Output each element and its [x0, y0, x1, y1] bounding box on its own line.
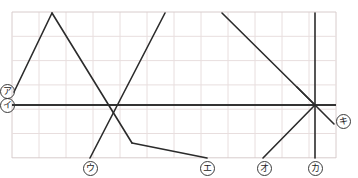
- label-ka: カ: [308, 161, 323, 176]
- label-u: ウ: [83, 161, 98, 176]
- label-ki: キ: [336, 114, 351, 129]
- grid-layer: [12, 12, 336, 158]
- diagram-canvas: [0, 0, 358, 178]
- label-o: オ: [257, 161, 272, 176]
- label-a: ア: [0, 84, 15, 99]
- segment-d: [132, 143, 207, 158]
- segment-f: [263, 105, 315, 158]
- label-i: イ: [0, 98, 15, 113]
- diagram-stage: アイウエオカキ: [0, 0, 358, 178]
- label-e: エ: [200, 161, 215, 176]
- segment-a-rise: [14, 13, 52, 92]
